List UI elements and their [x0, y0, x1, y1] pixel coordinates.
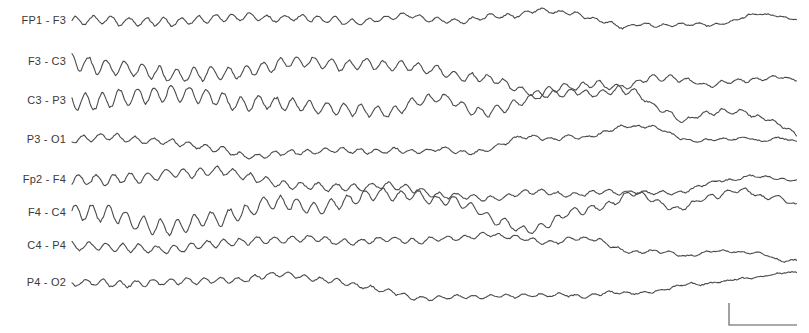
eeg-trace-p3-o1: [72, 125, 797, 159]
eeg-trace-p4-o2: [72, 272, 797, 301]
eeg-trace-fp1-f3: [72, 8, 797, 29]
eeg-trace-c3-p3: [72, 80, 797, 136]
calibration-bar: [729, 303, 797, 325]
eeg-trace-f3-c3: [72, 54, 797, 98]
eeg-trace-fp2-f4: [72, 166, 797, 201]
eeg-trace-c4-p4: [72, 232, 797, 262]
eeg-traces: [0, 0, 809, 333]
